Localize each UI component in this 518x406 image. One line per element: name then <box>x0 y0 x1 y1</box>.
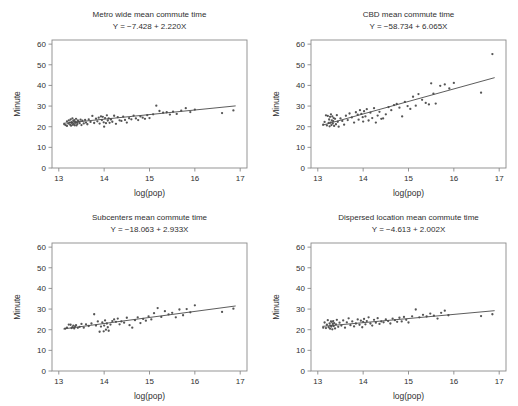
data-point <box>88 118 90 120</box>
data-point <box>98 122 100 124</box>
data-point <box>347 317 349 319</box>
data-point <box>330 113 332 115</box>
y-axis-title: Minute <box>12 294 22 320</box>
data-point <box>371 117 373 119</box>
data-point <box>105 122 107 124</box>
y-tick-label: 0 <box>42 367 47 376</box>
data-point <box>389 322 391 324</box>
data-point <box>480 315 482 317</box>
data-point <box>444 310 446 312</box>
data-point <box>345 115 347 117</box>
data-point <box>390 109 392 111</box>
data-point <box>336 114 338 116</box>
data-point <box>429 312 431 314</box>
data-point <box>80 323 82 325</box>
data-point <box>120 120 122 122</box>
y-tick-label: 30 <box>296 305 305 314</box>
data-point <box>108 330 110 332</box>
data-point <box>375 121 377 123</box>
x-tick-label: 17 <box>236 377 245 386</box>
y-tick-label: 10 <box>296 143 305 152</box>
data-point <box>66 125 68 127</box>
data-point <box>182 314 184 316</box>
data-point <box>89 121 91 123</box>
data-point <box>378 323 380 325</box>
data-point <box>336 319 338 321</box>
data-point <box>369 322 371 324</box>
data-point <box>107 119 109 121</box>
data-point <box>91 115 93 117</box>
x-tick-label: 15 <box>145 174 154 183</box>
data-point <box>164 310 166 312</box>
data-point <box>409 108 411 110</box>
data-point <box>349 324 351 326</box>
data-point <box>103 330 105 332</box>
data-point <box>411 315 413 317</box>
data-point <box>83 326 85 328</box>
data-point <box>80 124 82 126</box>
data-point <box>126 317 128 319</box>
data-point <box>359 109 361 111</box>
data-point <box>334 327 336 329</box>
data-point <box>415 105 417 107</box>
y-tick-label: 50 <box>37 61 46 70</box>
y-tick-label: 60 <box>296 243 305 252</box>
data-point <box>363 110 365 112</box>
y-tick-label: 50 <box>296 264 305 273</box>
data-point <box>436 317 438 319</box>
data-point <box>86 123 88 125</box>
regression-line <box>63 106 235 123</box>
y-axis-title: Minute <box>12 91 22 117</box>
data-point <box>103 121 105 123</box>
panel-title: Subcenters mean commute time <box>92 213 208 222</box>
panel-equation: Y = −4.613 + 2.002X <box>372 225 446 234</box>
data-point <box>407 321 409 323</box>
data-point <box>338 322 340 324</box>
data-point <box>358 324 360 326</box>
data-point <box>444 83 446 85</box>
data-point <box>130 118 132 120</box>
y-tick-label: 30 <box>296 102 305 111</box>
data-point <box>353 325 355 327</box>
x-tick-label: 14 <box>100 377 109 386</box>
data-point <box>232 308 234 310</box>
y-tick-label: 60 <box>37 40 46 49</box>
y-tick-label: 0 <box>301 164 306 173</box>
plot-frame <box>311 243 506 371</box>
data-point <box>105 329 107 331</box>
y-tick-label: 40 <box>37 81 46 90</box>
data-point <box>363 318 365 320</box>
x-axis-title: log(pop) <box>134 188 165 198</box>
y-tick-label: 60 <box>296 40 305 49</box>
data-point <box>412 96 414 98</box>
data-point <box>346 321 348 323</box>
data-point <box>347 119 349 121</box>
data-point <box>364 323 366 325</box>
data-point <box>75 118 77 120</box>
y-tick-label: 10 <box>296 346 305 355</box>
data-point <box>98 116 100 118</box>
data-point <box>421 99 423 101</box>
data-point <box>131 326 133 328</box>
data-point <box>325 327 327 329</box>
y-tick-label: 40 <box>296 284 305 293</box>
y-tick-label: 0 <box>301 367 306 376</box>
data-point <box>360 319 362 321</box>
data-point <box>139 322 141 324</box>
y-tick-label: 20 <box>296 326 305 335</box>
data-point <box>334 118 336 120</box>
data-point <box>364 115 366 117</box>
x-tick-label: 16 <box>190 377 199 386</box>
x-tick-label: 13 <box>54 174 63 183</box>
data-point <box>109 323 111 325</box>
data-point <box>185 107 187 109</box>
data-point <box>440 312 442 314</box>
data-point <box>351 320 353 322</box>
data-point <box>189 111 191 113</box>
y-tick-label: 50 <box>37 264 46 273</box>
data-point <box>361 326 363 328</box>
data-point <box>142 116 144 118</box>
commute-time-figure: Metro wide mean commute timeY = −7.428 +… <box>0 0 518 406</box>
data-point <box>415 308 417 310</box>
data-point <box>396 321 398 323</box>
